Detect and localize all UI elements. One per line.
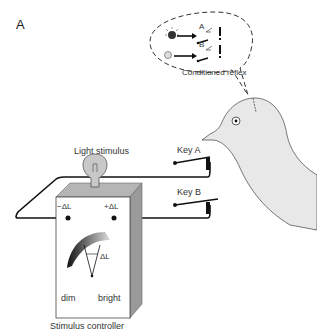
unlit-bulb-icon <box>165 52 172 59</box>
pigeon-illustration <box>202 98 317 230</box>
conditioned-reflex-label: Conditioned reflex <box>182 68 246 77</box>
bubble-key-b-label: B <box>199 40 204 49</box>
plus-delta-l-label: +ΔL <box>104 202 118 211</box>
minus-delta-l-label: −ΔL <box>57 202 71 211</box>
dial-delta-l-label: ΔL <box>100 252 110 261</box>
light-bulb-icon <box>83 154 107 187</box>
key-a-switch <box>173 157 210 170</box>
stimulus-controller-label: Stimulus controller <box>50 321 124 331</box>
lit-bulb-icon <box>165 27 179 39</box>
experiment-diagram <box>0 0 317 336</box>
key-b-switch <box>173 199 218 214</box>
light-stimulus-label: Light stimulus <box>74 146 129 156</box>
arrow-icon <box>174 33 197 59</box>
key-a-label: Key A <box>177 145 201 155</box>
key-b-label: Key B <box>177 187 201 197</box>
bright-label: bright <box>98 293 121 303</box>
bubble-key-a-label: A <box>199 22 204 31</box>
dim-label: dim <box>61 293 76 303</box>
